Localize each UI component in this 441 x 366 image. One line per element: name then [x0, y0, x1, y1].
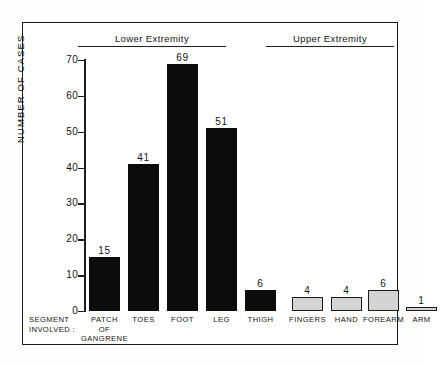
bar-value-label: 4 — [343, 285, 349, 296]
bar-forearm[interactable]: 6 — [368, 290, 399, 312]
y-axis-title: NUMBER OF CASES — [15, 35, 26, 143]
bar-hand[interactable]: 4 — [331, 297, 362, 311]
y-axis-tick-label-40: 40 — [50, 162, 78, 173]
chart-frame: Lower Extremity Upper Extremity 70605040… — [22, 22, 398, 345]
bar-toes[interactable]: 41 — [128, 164, 159, 311]
group-header-lower-extremity: Lower Extremity — [78, 33, 226, 47]
bar-value-label: 51 — [215, 116, 228, 127]
group-header-upper-extremity-label: Upper Extremity — [266, 33, 394, 46]
x-axis-label-arm: ARM — [397, 315, 441, 325]
y-axis-tick-label-10: 10 — [50, 269, 78, 280]
group-header-upper-extremity-rule — [266, 46, 394, 47]
y-axis-tick-label-30: 30 — [50, 197, 78, 208]
bar-value-label: 41 — [137, 152, 150, 163]
bar-value-label: 1 — [418, 295, 424, 306]
bar-arm[interactable]: 1 — [406, 307, 437, 311]
bar-value-label: 4 — [304, 285, 310, 296]
plot-area: 1541695164461 — [84, 60, 389, 311]
bar-value-label: 6 — [257, 278, 263, 289]
bar-foot[interactable]: 69 — [167, 64, 198, 311]
bar-thigh[interactable]: 6 — [245, 290, 276, 312]
y-axis-tick-label-50: 50 — [50, 126, 78, 137]
group-header-lower-extremity-label: Lower Extremity — [78, 33, 226, 46]
y-axis-tick-0 — [78, 311, 84, 312]
group-header-lower-extremity-rule — [78, 46, 226, 47]
bar-value-label: 15 — [98, 245, 111, 256]
bar-value-label: 6 — [380, 278, 386, 289]
x-axis-label-thigh: THIGH — [236, 315, 285, 325]
bar-patch-of-gangrene[interactable]: 15 — [89, 257, 120, 311]
bar-leg[interactable]: 51 — [206, 128, 237, 311]
segment-involved-caption: SEGMENT INVOLVED : — [29, 315, 75, 334]
y-axis-tick-label-60: 60 — [50, 90, 78, 101]
y-axis-tick-label-20: 20 — [50, 233, 78, 244]
y-axis-tick-label-70: 70 — [50, 54, 78, 65]
bar-fingers[interactable]: 4 — [292, 297, 323, 311]
group-header-upper-extremity: Upper Extremity — [266, 33, 394, 47]
bar-value-label: 69 — [176, 52, 189, 63]
